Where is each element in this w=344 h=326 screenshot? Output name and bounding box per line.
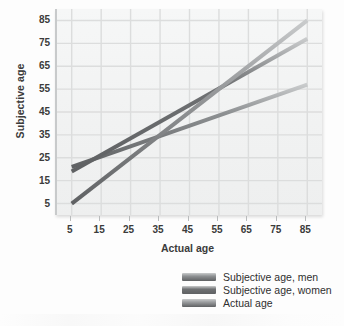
x-axis-tick-label: 15 bbox=[84, 224, 114, 236]
legend-swatch bbox=[182, 273, 216, 281]
y-axis-tick-label: 65 bbox=[26, 61, 50, 71]
x-axis-tick-mark bbox=[246, 216, 247, 221]
x-axis-tick-mark bbox=[70, 216, 71, 221]
x-axis-tick-marks bbox=[55, 216, 320, 222]
legend-swatch bbox=[182, 299, 216, 307]
legend-swatch bbox=[182, 286, 216, 294]
y-axis-tick-label: 15 bbox=[26, 176, 50, 186]
x-axis-tick-label: 75 bbox=[261, 224, 291, 236]
x-axis-title: Actual age bbox=[55, 242, 320, 254]
chart-figure: Subjective age 51525354555657585 5152535… bbox=[0, 0, 344, 326]
series-line bbox=[72, 85, 308, 167]
chart-legend: Subjective age, menSubjective age, women… bbox=[182, 271, 342, 310]
y-axis-title: Subjective age bbox=[14, 46, 26, 156]
y-axis-tick-label: 85 bbox=[26, 15, 50, 25]
x-axis-tick-label: 85 bbox=[290, 224, 320, 236]
y-axis-tick-label: 55 bbox=[26, 84, 50, 94]
x-axis-tick-label: 25 bbox=[114, 224, 144, 236]
legend-label: Actual age bbox=[223, 297, 273, 309]
y-axis-tick-label: 25 bbox=[26, 153, 50, 163]
x-axis-tick-label: 5 bbox=[55, 224, 85, 236]
page-artifact bbox=[0, 314, 344, 326]
x-axis-tick-mark bbox=[158, 216, 159, 221]
x-axis-tick-label: 65 bbox=[231, 224, 261, 236]
legend-item: Actual age bbox=[182, 297, 342, 309]
legend-item: Subjective age, men bbox=[182, 271, 342, 283]
y-axis-tick-labels: 51525354555657585 bbox=[26, 8, 50, 208]
x-axis-tick-mark bbox=[129, 216, 130, 221]
plot-area bbox=[55, 9, 322, 215]
x-axis-tick-label: 45 bbox=[173, 224, 203, 236]
x-axis-tick-mark bbox=[305, 216, 306, 221]
x-axis-tick-label: 55 bbox=[202, 224, 232, 236]
series-lines bbox=[57, 9, 322, 215]
x-axis-tick-mark bbox=[217, 216, 218, 221]
y-axis-tick-label: 35 bbox=[26, 130, 50, 140]
y-axis-tick-label: 5 bbox=[26, 199, 50, 209]
x-axis-tick-mark bbox=[188, 216, 189, 221]
series-line bbox=[72, 20, 308, 203]
x-axis-tick-labels: 51525354555657585 bbox=[55, 224, 320, 238]
legend-label: Subjective age, women bbox=[223, 284, 332, 296]
x-axis-tick-mark bbox=[276, 216, 277, 221]
x-axis-tick-mark bbox=[99, 216, 100, 221]
y-axis-tick-label: 45 bbox=[26, 107, 50, 117]
legend-label: Subjective age, men bbox=[223, 271, 318, 283]
legend-item: Subjective age, women bbox=[182, 284, 342, 296]
x-axis-tick-label: 35 bbox=[143, 224, 173, 236]
y-axis-tick-label: 75 bbox=[26, 38, 50, 48]
series-line bbox=[72, 39, 308, 172]
